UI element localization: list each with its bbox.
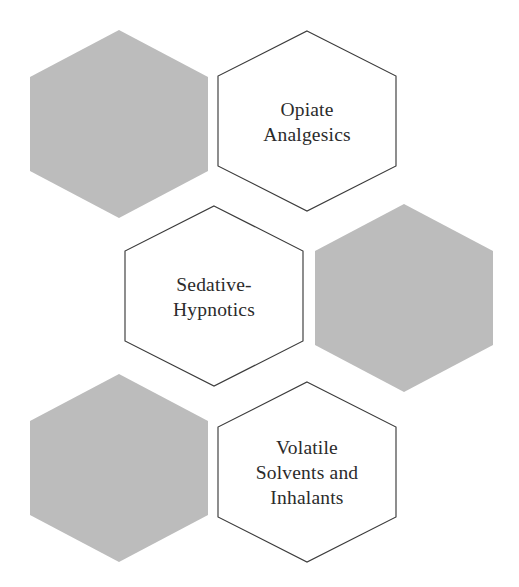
label-line: Volatile — [276, 437, 338, 458]
hexagon-layer: OpiateAnalgesicsSedative-HypnoticsVolati… — [30, 30, 493, 562]
label-line: Hypnotics — [173, 299, 255, 320]
hexagon-opiate-analgesics — [218, 31, 396, 211]
hexagon-sedative-hypnotics — [125, 206, 303, 386]
blank-hexagon-middle-right — [315, 204, 493, 392]
hexagon-diagram-canvas: OpiateAnalgesicsSedative-HypnoticsVolati… — [0, 0, 519, 587]
label-line: Analgesics — [263, 124, 351, 145]
label-line: Opiate — [280, 99, 333, 120]
hexagon-diagram: OpiateAnalgesicsSedative-HypnoticsVolati… — [0, 0, 519, 587]
blank-hexagon-top-left — [30, 30, 208, 218]
label-line: Sedative- — [176, 274, 251, 295]
label-line: Solvents and — [256, 462, 359, 483]
blank-hexagon-bottom-left — [30, 374, 208, 562]
label-line: Inhalants — [270, 487, 343, 508]
